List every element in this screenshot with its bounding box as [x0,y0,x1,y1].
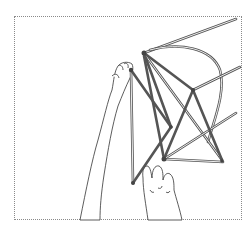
right-hand [143,166,182,220]
illustration [0,0,250,228]
joints [129,51,224,186]
left-arm [80,62,133,220]
rods [131,19,240,183]
rod-frame-drawing [0,0,250,228]
